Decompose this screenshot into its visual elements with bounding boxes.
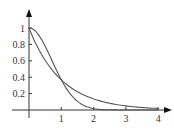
curve-gaussian (29, 28, 158, 110)
x-tick-label: 3 (123, 113, 128, 124)
x-tick-label: 1 (59, 113, 64, 124)
curve-exponential (29, 28, 158, 109)
chart: 12340.20.40.60.81 (0, 0, 174, 133)
y-tick-label: 0.6 (13, 55, 26, 66)
x-tick-label: 4 (156, 113, 161, 124)
axes: 12340.20.40.60.81 (12, 9, 172, 124)
x-axis-arrow-icon (164, 107, 172, 113)
y-tick-label: 0.2 (13, 88, 26, 99)
y-tick-label: 1 (20, 23, 25, 34)
x-tick-label: 2 (91, 113, 96, 124)
curves (29, 28, 158, 110)
y-tick-label: 0.4 (13, 72, 26, 83)
y-tick-label: 0.8 (13, 39, 26, 50)
y-axis-arrow-icon (26, 9, 32, 17)
